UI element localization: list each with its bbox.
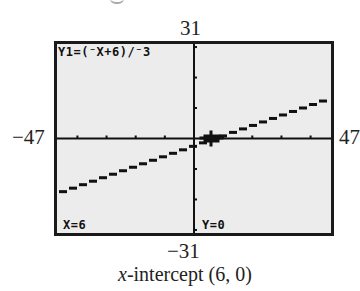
graph-line-segment <box>99 176 107 179</box>
graph-line-segment <box>229 131 237 134</box>
graph-line-segment <box>139 162 147 165</box>
ymax-label: 31 <box>180 18 201 39</box>
figure-caption: x-intercept (6, 0) <box>118 264 252 284</box>
xmin-label: −47 <box>12 127 45 148</box>
graph-line-segment <box>189 145 197 148</box>
graph-line-segment <box>129 166 137 169</box>
graph-line-segment <box>119 169 127 172</box>
x-coordinate-readout: X=6 <box>63 219 86 231</box>
graph-line-segment <box>179 148 187 151</box>
graph-line-segment <box>319 100 327 103</box>
graph-line-segment <box>299 106 307 109</box>
calculator-graph-screen: Y1=(⁻X+6)/⁻3 X=6 Y=0 <box>54 41 334 236</box>
graph-line-segment <box>69 187 77 190</box>
caption-variable: x <box>118 263 127 285</box>
graph-line-segment <box>309 103 317 106</box>
graph-line-segment <box>59 190 67 193</box>
graph-line-segment <box>79 183 87 186</box>
ymin-label: −31 <box>167 241 200 262</box>
graph-line-segment <box>249 124 257 127</box>
trace-cursor-cross <box>199 137 223 140</box>
graph-line-segment <box>289 110 297 113</box>
graph-line-segment <box>149 159 157 162</box>
graph-line-segment <box>109 173 117 176</box>
graph-plot <box>57 44 331 233</box>
graph-line-segment <box>169 152 177 155</box>
y-coordinate-readout: Y=0 <box>200 219 225 231</box>
graph-line-segment <box>269 117 277 120</box>
cropped-text-fragment <box>110 0 124 4</box>
graph-line-segment <box>159 155 167 158</box>
xmax-label: 47 <box>339 127 360 148</box>
caption-text: -intercept (6, 0) <box>127 263 252 285</box>
equation-label: Y1=(⁻X+6)/⁻3 <box>58 46 153 58</box>
graph-line-segment <box>239 127 247 130</box>
graph-line-segment <box>259 120 267 123</box>
graph-line-segment <box>279 113 287 116</box>
graph-line-segment <box>89 180 97 183</box>
